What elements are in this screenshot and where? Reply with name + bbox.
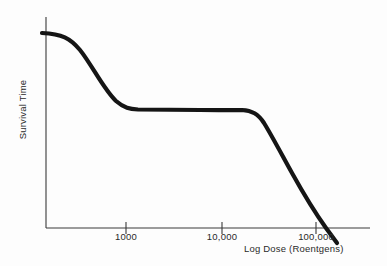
y-axis-title: Survival Time xyxy=(17,50,28,170)
x-axis-title: Log Dose (Roentgens) xyxy=(244,243,344,254)
chart-figure: 1000 10,000 100,000 Log Dose (Roentgens)… xyxy=(0,0,387,266)
x-tick-label-10000: 10,000 xyxy=(207,231,237,242)
x-tick-label-100000: 100,000 xyxy=(298,231,334,242)
survival-time-curve xyxy=(42,33,337,243)
x-tick-label-1000: 1000 xyxy=(115,231,137,242)
chart-plot-area xyxy=(0,0,387,266)
